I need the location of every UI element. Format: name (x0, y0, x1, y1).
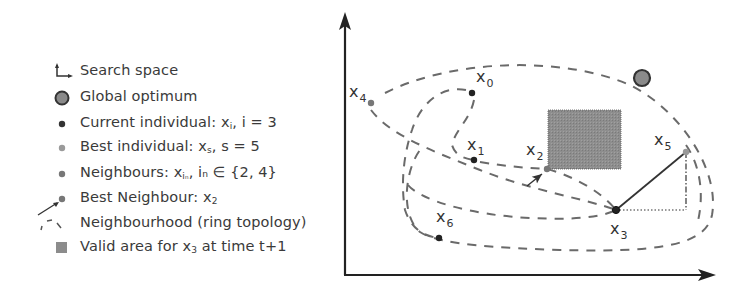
point-x6 (436, 235, 442, 241)
search-space-diagram: x0x1x2x3x4x5x6 (0, 0, 745, 291)
label-x5: x5 (654, 130, 671, 153)
label-x0: x0 (476, 67, 493, 90)
label-x3: x3 (610, 219, 627, 242)
ring-x0-x2 (403, 89, 466, 238)
global-optimum-marker (634, 70, 650, 86)
point-x4 (368, 100, 374, 106)
ring-x5 (686, 145, 701, 225)
point-x0 (469, 90, 475, 96)
points-layer: x0x1x2x3x4x5x6 (349, 67, 689, 242)
label-x2: x2 (526, 140, 543, 163)
best-neighbour-arrow-icon (527, 174, 542, 186)
point-x1 (471, 157, 477, 163)
label-x6: x6 (436, 207, 453, 230)
point-x3 (612, 206, 619, 213)
move-vector (616, 152, 686, 210)
label-x1: x1 (467, 135, 484, 158)
point-x5 (683, 149, 689, 155)
valid-area-square (548, 110, 621, 169)
label-x4: x4 (349, 82, 366, 105)
point-x2 (544, 166, 550, 172)
